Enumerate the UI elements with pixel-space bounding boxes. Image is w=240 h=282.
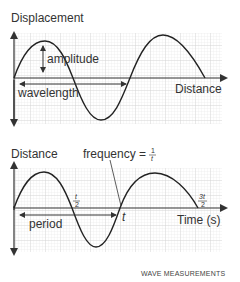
bottom-grid xyxy=(14,168,222,252)
svg-text:t: t xyxy=(151,155,154,162)
top-y-axis-label: Displacement xyxy=(11,11,84,25)
svg-text:2: 2 xyxy=(75,201,79,208)
displacement-distance-chart: Displacement amplitude wavelength Distan… xyxy=(11,11,226,125)
wave-diagram: Displacement amplitude wavelength Distan… xyxy=(0,0,240,282)
svg-text:2: 2 xyxy=(201,201,205,208)
frequency-fraction: 1 t xyxy=(149,147,156,162)
distance-time-chart: Distance frequency = 1 t t 2 t 3t 2 peri… xyxy=(11,147,226,254)
top-x-axis-label: Distance xyxy=(175,82,222,96)
frequency-label: frequency = xyxy=(83,147,146,161)
caption: WAVE MEASUREMENTS xyxy=(141,270,225,277)
amplitude-label: amplitude xyxy=(47,52,99,66)
bottom-y-axis-label: Distance xyxy=(11,147,58,161)
bottom-x-axis-label: Time (s) xyxy=(177,213,221,227)
period-label: period xyxy=(29,217,62,231)
svg-text:1: 1 xyxy=(151,147,155,154)
wavelength-label: wavelength xyxy=(17,86,79,100)
